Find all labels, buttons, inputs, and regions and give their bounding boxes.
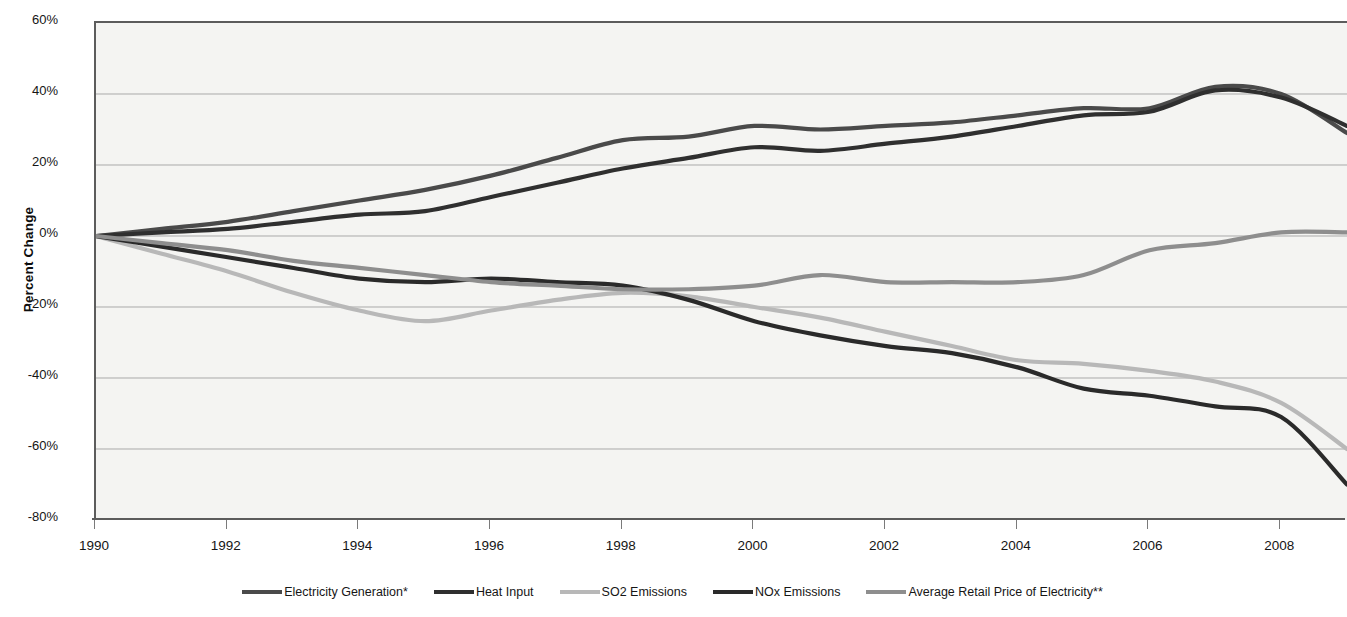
legend-item[interactable]: SO2 Emissions — [560, 586, 687, 599]
legend-item[interactable]: Average Retail Price of Electricity** — [866, 586, 1102, 599]
x-tick-label: 1998 — [586, 538, 656, 553]
legend-color-swatch — [434, 590, 474, 594]
y-tick-label: 0% — [0, 225, 58, 240]
x-tick-mark — [489, 520, 490, 529]
x-tick-mark — [621, 520, 622, 529]
y-tick-label: 40% — [0, 83, 58, 98]
legend-color-swatch — [713, 590, 753, 594]
x-tick-label: 2006 — [1112, 538, 1182, 553]
legend-item[interactable]: Heat Input — [434, 586, 534, 599]
plot-area — [94, 21, 1347, 520]
x-tick-label: 1992 — [191, 538, 261, 553]
plot-svg — [96, 23, 1347, 520]
x-tick-mark — [752, 520, 753, 529]
x-axis-line — [92, 518, 1345, 520]
legend-item-label: Average Retail Price of Electricity** — [908, 586, 1102, 599]
y-tick-label: 20% — [0, 154, 58, 169]
legend-item-label: SO2 Emissions — [602, 586, 687, 599]
chart-legend: Electricity Generation*Heat InputSO2 Emi… — [0, 586, 1345, 599]
x-tick-label: 1996 — [454, 538, 524, 553]
y-tick-label: -40% — [0, 367, 58, 382]
legend-item-label: Heat Input — [476, 586, 534, 599]
legend-color-swatch — [866, 590, 906, 594]
series-lines — [96, 86, 1347, 485]
x-tick-mark — [1016, 520, 1017, 529]
y-tick-label: -80% — [0, 509, 58, 524]
series-line — [96, 236, 1347, 485]
legend-item[interactable]: Electricity Generation* — [242, 586, 408, 599]
y-tick-label: 60% — [0, 12, 58, 27]
x-tick-mark — [226, 520, 227, 529]
x-tick-label: 2008 — [1244, 538, 1314, 553]
legend-color-swatch — [242, 590, 282, 594]
y-tick-label: -60% — [0, 438, 58, 453]
legend-item-label: Electricity Generation* — [284, 586, 408, 599]
legend-item[interactable]: NOx Emissions — [713, 586, 840, 599]
legend-color-swatch — [560, 590, 600, 594]
x-tick-mark — [1147, 520, 1148, 529]
x-tick-mark — [94, 520, 95, 529]
x-tick-label: 2002 — [849, 538, 919, 553]
legend-item-label: NOx Emissions — [755, 586, 840, 599]
x-tick-label: 2004 — [981, 538, 1051, 553]
x-tick-label: 1990 — [59, 538, 129, 553]
y-tick-label: -20% — [0, 296, 58, 311]
x-tick-mark — [1279, 520, 1280, 529]
series-line — [96, 232, 1347, 290]
x-tick-label: 2000 — [717, 538, 787, 553]
y-axis-title: Percent Change — [21, 170, 36, 350]
x-tick-label: 1994 — [322, 538, 392, 553]
x-tick-mark — [884, 520, 885, 529]
x-tick-mark — [357, 520, 358, 529]
